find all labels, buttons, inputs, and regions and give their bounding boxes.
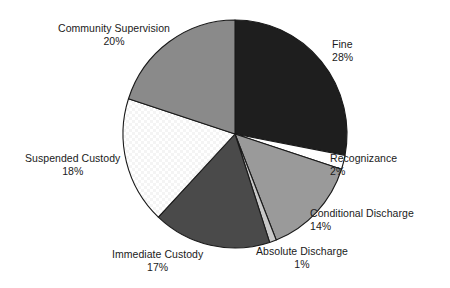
pie-label-recognizance: Recognizance 2% bbox=[330, 152, 397, 178]
pie-label-value: 28% bbox=[332, 51, 353, 64]
pie-label-name: Community Supervision bbox=[58, 22, 170, 35]
pie-label-value: 1% bbox=[256, 258, 348, 271]
pie-label-name: Absolute Discharge bbox=[256, 245, 348, 258]
pie-label-value: 2% bbox=[330, 165, 397, 178]
pie-label-value: 18% bbox=[25, 165, 120, 178]
pie-label-name: Suspended Custody bbox=[25, 152, 120, 165]
pie-label-name: Immediate Custody bbox=[112, 248, 203, 261]
pie-label-suspended-custody: Suspended Custody 18% bbox=[25, 152, 120, 178]
pie-label-value: 14% bbox=[310, 220, 414, 233]
pie-label-value: 17% bbox=[112, 261, 203, 274]
pie-label-name: Conditional Discharge bbox=[310, 207, 414, 220]
pie-slice-fine bbox=[235, 20, 347, 155]
pie-label-conditional-discharge: Conditional Discharge 14% bbox=[310, 207, 414, 233]
pie-label-immediate-custody: Immediate Custody 17% bbox=[112, 248, 203, 274]
pie-label-name: Fine bbox=[332, 38, 353, 51]
pie-label-value: 20% bbox=[58, 35, 170, 48]
pie-label-community-supervision: Community Supervision 20% bbox=[58, 22, 170, 48]
pie-label-fine: Fine 28% bbox=[332, 38, 353, 64]
pie-label-absolute-discharge: Absolute Discharge 1% bbox=[256, 245, 348, 271]
pie-chart: Community Supervision 20% Fine 28% Recog… bbox=[0, 0, 450, 288]
pie-label-name: Recognizance bbox=[330, 152, 397, 165]
